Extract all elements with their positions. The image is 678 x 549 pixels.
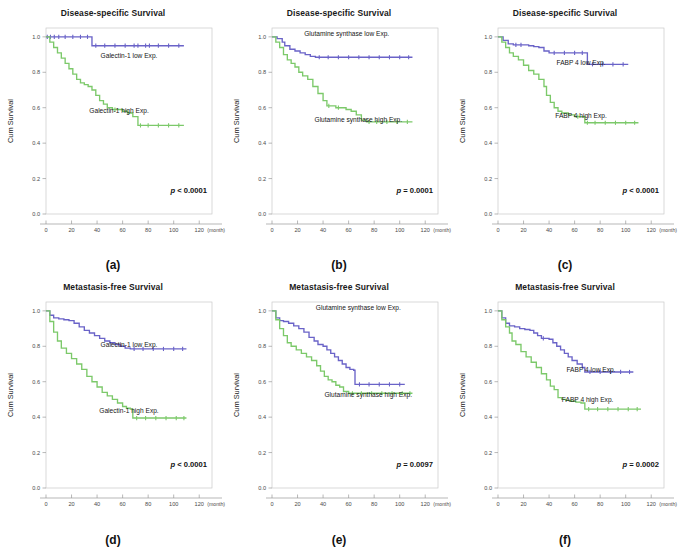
x-tick-label: 120 [647, 227, 656, 233]
x-axis-unit-label: (month) [207, 501, 225, 507]
y-axis-title: Cum Survival [458, 373, 467, 417]
y-tick-label: 0.2 [484, 176, 492, 182]
x-tick-label: 40 [320, 501, 326, 507]
y-tick-label: 1.0 [258, 308, 266, 314]
x-axis-unit-label: (month) [207, 227, 225, 233]
y-tick-label: 0.6 [258, 379, 266, 385]
x-tick-label: 40 [546, 501, 552, 507]
plot-area-c: 0.00.20.40.60.81.0020406080100120(month)… [452, 20, 678, 248]
x-tick-label: 60 [119, 501, 125, 507]
x-tick-label: 20 [294, 501, 300, 507]
p-value-annotation: p = 0.0001 [395, 186, 433, 195]
x-tick-label: 100 [621, 227, 630, 233]
y-tick-label: 1.0 [484, 308, 492, 314]
y-tick-label: 0.0 [484, 485, 492, 491]
y-tick-label: 0.2 [258, 176, 266, 182]
y-tick-label: 0.4 [32, 140, 40, 146]
panel-letter: (a) [0, 258, 226, 272]
p-value-annotation: p = 0.0097 [395, 460, 433, 469]
y-tick-label: 0.6 [32, 105, 40, 111]
kaplan-meier-figure: Disease-specific Survival0.00.20.40.60.8… [0, 0, 678, 549]
panel-letter: (b) [226, 258, 452, 272]
y-tick-label: 0.8 [32, 343, 40, 349]
y-axis-title: Cum Survival [458, 99, 467, 143]
panel-letter: (e) [226, 533, 452, 547]
km-curve-low [498, 311, 633, 374]
y-tick-label: 0.0 [32, 211, 40, 217]
panel-title: Disease-specific Survival [226, 8, 452, 18]
x-tick-label: 0 [270, 227, 273, 233]
panel-letter: (c) [452, 258, 678, 272]
x-tick-label: 100 [169, 501, 178, 507]
curve-label-high: Glutamine synthase high Exp. [324, 391, 412, 399]
x-tick-label: 80 [371, 501, 377, 507]
x-tick-label: 20 [520, 501, 526, 507]
x-tick-label: 0 [44, 227, 47, 233]
y-tick-label: 0.0 [32, 485, 40, 491]
x-tick-label: 120 [421, 501, 430, 507]
x-tick-label: 60 [571, 227, 577, 233]
x-tick-label: 0 [270, 501, 273, 507]
km-step-path [498, 311, 641, 409]
x-tick-label: 20 [294, 227, 300, 233]
panel-letter: (f) [452, 533, 678, 547]
y-tick-label: 0.8 [258, 343, 266, 349]
y-axis-title: Cum Survival [232, 99, 241, 143]
p-value-annotation: p < 0.0001 [621, 186, 659, 195]
y-tick-label: 0.2 [258, 450, 266, 456]
x-axis-unit-label: (month) [659, 227, 677, 233]
plot-area-e: 0.00.20.40.60.81.0020406080100120(month)… [226, 294, 452, 522]
curve-label-low: Galectin-1 low Exp. [101, 341, 158, 349]
x-tick-label: 100 [395, 227, 404, 233]
km-curve-low [272, 37, 412, 59]
x-axis-unit-label: (month) [659, 501, 677, 507]
y-tick-label: 0.6 [32, 379, 40, 385]
panel-title: Metastasis-free Survival [452, 282, 678, 292]
x-tick-label: 20 [520, 227, 526, 233]
x-tick-label: 60 [345, 227, 351, 233]
x-tick-label: 60 [119, 227, 125, 233]
y-tick-label: 0.4 [32, 414, 40, 420]
curve-label-low: FABP 4 low Exp. [557, 59, 606, 67]
km-curve-low [46, 35, 184, 48]
x-tick-label: 80 [145, 501, 151, 507]
y-tick-label: 0.4 [484, 414, 492, 420]
x-tick-label: 100 [621, 501, 630, 507]
y-tick-label: 0.4 [484, 140, 492, 146]
curve-label-high: FABP 4 high Exp. [555, 112, 607, 120]
plot-area-f: 0.00.20.40.60.81.0020406080100120(month)… [452, 294, 678, 522]
x-axis-unit-label: (month) [433, 501, 451, 507]
x-tick-label: 80 [597, 501, 603, 507]
curve-label-high: FABP 4 high Exp. [562, 396, 614, 404]
plot-area-a: 0.00.20.40.60.81.0020406080100120(month)… [0, 20, 226, 248]
plot-area-b: 0.00.20.40.60.81.0020406080100120(month)… [226, 20, 452, 248]
km-step-path [272, 311, 405, 385]
x-tick-label: 80 [371, 227, 377, 233]
x-tick-label: 40 [94, 227, 100, 233]
panel-letter: (d) [0, 533, 226, 547]
curve-label-high: Galectin-1 high Exp. [99, 407, 159, 415]
x-tick-label: 120 [647, 501, 656, 507]
km-step-path [498, 311, 633, 372]
y-tick-label: 1.0 [258, 34, 266, 40]
p-value-annotation: p = 0.0002 [621, 460, 659, 469]
x-tick-label: 60 [345, 501, 351, 507]
x-tick-label: 80 [145, 227, 151, 233]
x-tick-label: 100 [395, 501, 404, 507]
y-tick-label: 1.0 [32, 34, 40, 40]
y-tick-label: 0.4 [258, 140, 266, 146]
survival-panel-e: Metastasis-free Survival0.00.20.40.60.81… [226, 274, 452, 549]
survival-panel-c: Disease-specific Survival0.00.20.40.60.8… [452, 0, 678, 274]
survival-panel-d: Metastasis-free Survival0.00.20.40.60.81… [0, 274, 226, 549]
curve-label-low: Glutamine synthase low Exp. [316, 304, 401, 312]
panel-title: Metastasis-free Survival [0, 282, 226, 292]
y-axis-title: Cum Survival [232, 373, 241, 417]
panel-title: Metastasis-free Survival [226, 282, 452, 292]
survival-panel-a: Disease-specific Survival0.00.20.40.60.8… [0, 0, 226, 274]
y-tick-label: 0.8 [32, 69, 40, 75]
y-tick-label: 0.0 [258, 211, 266, 217]
curve-label-low: FABP 4 low Exp. [566, 366, 615, 374]
panel-title: Disease-specific Survival [0, 8, 226, 18]
y-axis-title: Cum Survival [6, 373, 15, 417]
km-step-path [46, 311, 186, 418]
